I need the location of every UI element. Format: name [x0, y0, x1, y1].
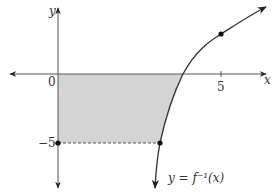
point-on-curve-upper: [218, 31, 223, 36]
graph-canvas: y x 0 5 −5 y = f⁻¹(x): [0, 0, 274, 194]
shaded-region: [58, 74, 183, 143]
y-axis-label: y: [48, 4, 56, 18]
origin-label: 0: [48, 75, 56, 89]
point-on-curve-lower: [157, 140, 162, 145]
x-tick-label-5: 5: [217, 80, 225, 94]
y-tick-label-minus-5: −5: [38, 136, 56, 150]
x-axis-label: x: [264, 73, 271, 87]
function-label: y = f⁻¹(x): [167, 171, 224, 185]
point-on-y-axis: [55, 140, 60, 145]
